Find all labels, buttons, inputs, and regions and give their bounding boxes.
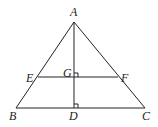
triangle-figure [0,0,158,127]
label-e: E [26,72,33,84]
label-d: D [69,110,78,122]
segment-ab [16,22,74,108]
label-f: F [121,72,128,84]
geometry-diagram: A E G F B D C [0,0,158,127]
label-b: B [9,110,16,122]
label-c: C [142,110,150,122]
label-a: A [70,6,77,18]
right-angle-mark-d [74,104,78,108]
label-g: G [63,67,72,79]
right-angle-mark-g [74,73,78,77]
segment-ac [74,22,145,108]
